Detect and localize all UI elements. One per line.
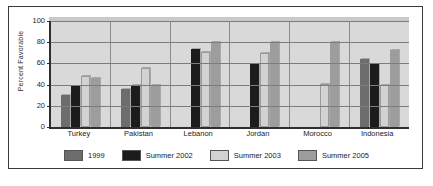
y-tickmark-20 — [47, 106, 51, 107]
plot-area — [49, 21, 409, 129]
gridline-100 — [51, 21, 409, 22]
legend-label: Summer 2005 — [322, 151, 369, 160]
gridline-40 — [51, 85, 409, 86]
gridline-60 — [51, 63, 409, 64]
y-tickmark-40 — [47, 85, 51, 86]
y-axis-tick-80: 80 — [23, 38, 45, 46]
y-axis-tick-100: 100 — [23, 17, 45, 25]
legend-label: Summer 2003 — [234, 151, 281, 160]
y-axis-tick-60: 60 — [23, 59, 45, 67]
plot-area-wrapper: Percent Favorable 100806040200 TurkeyPak… — [9, 7, 424, 135]
bars — [290, 21, 349, 127]
bar-jordan-summer-2002 — [250, 64, 259, 127]
y-tickmark-80 — [47, 42, 51, 43]
y-tickmark-0 — [47, 127, 51, 128]
legend-item-1999: 1999 — [64, 150, 105, 161]
y-axis-tick-0: 0 — [23, 123, 45, 131]
bars — [111, 21, 170, 127]
x-axis-label-morocco: Morocco — [288, 129, 348, 143]
bar-group-turkey — [51, 21, 111, 127]
legend-swatch-1999 — [64, 150, 83, 161]
bar-indonesia-1999 — [360, 59, 369, 127]
bar-group-lebanon — [171, 21, 231, 127]
y-tickmark-100 — [47, 21, 51, 22]
x-axis-label-jordan: Jordan — [228, 129, 288, 143]
bar-groups — [51, 21, 409, 127]
x-axis-label-lebanon: Lebanon — [168, 129, 228, 143]
bars — [171, 21, 230, 127]
gridline-80 — [51, 42, 409, 43]
bar-indonesia-summer-2005 — [390, 50, 399, 127]
bar-group-morocco — [290, 21, 350, 127]
y-axis-tick-20: 20 — [23, 102, 45, 110]
chart-figure: Percent Favorable 100806040200 TurkeyPak… — [8, 6, 423, 169]
bar-group-pakistan — [111, 21, 171, 127]
x-axis-label-turkey: Turkey — [49, 129, 109, 143]
bar-pakistan-summer-2003 — [141, 68, 150, 127]
bar-turkey-1999 — [61, 95, 70, 127]
legend-swatch-summer-2002 — [122, 150, 141, 161]
bars — [230, 21, 289, 127]
y-tickmark-60 — [47, 63, 51, 64]
bar-group-jordan — [230, 21, 290, 127]
y-axis-tick-labels: 100806040200 — [23, 7, 45, 135]
legend-item-summer-2003: Summer 2003 — [210, 150, 281, 161]
legend-swatch-summer-2003 — [210, 150, 229, 161]
legend-swatch-summer-2005 — [298, 150, 317, 161]
y-axis-tick-40: 40 — [23, 81, 45, 89]
bar-group-indonesia — [350, 21, 409, 127]
legend-item-summer-2002: Summer 2002 — [122, 150, 193, 161]
bar-lebanon-summer-2002 — [191, 49, 200, 127]
legend-item-summer-2005: Summer 2005 — [298, 150, 369, 161]
x-axis-label-pakistan: Pakistan — [109, 129, 169, 143]
gridline-20 — [51, 106, 409, 107]
legend-label: Summer 2002 — [146, 151, 193, 160]
x-axis-label-indonesia: Indonesia — [347, 129, 407, 143]
bars — [51, 21, 110, 127]
bars — [350, 21, 409, 127]
chart-legend: 1999Summer 2002Summer 2003Summer 2005 — [9, 145, 424, 165]
legend-label: 1999 — [88, 151, 105, 160]
bar-indonesia-summer-2002 — [370, 64, 379, 127]
bar-pakistan-1999 — [121, 89, 130, 127]
x-axis-category-labels: TurkeyPakistanLebanonJordanMoroccoIndone… — [49, 129, 407, 143]
